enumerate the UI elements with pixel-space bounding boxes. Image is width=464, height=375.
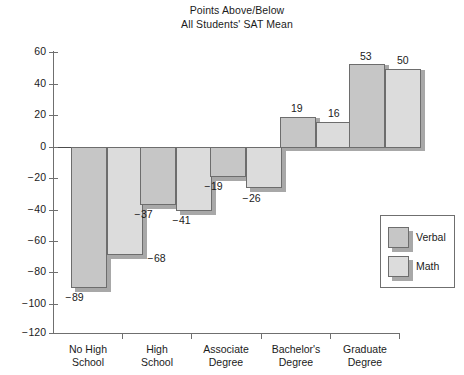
value-label-math: − 68 xyxy=(147,253,166,264)
legend-swatch-verbal xyxy=(388,227,409,248)
bar-math xyxy=(316,122,352,148)
bar-verbal xyxy=(280,117,316,148)
category-label-line: Degree xyxy=(320,356,410,369)
value-label-math: 16 xyxy=(328,108,340,119)
bar-math xyxy=(176,147,212,211)
legend-label-math: Math xyxy=(416,260,439,272)
x-tick xyxy=(399,333,400,339)
y-tick-label: − 120 xyxy=(21,326,46,338)
chart-title: Points Above/Below All Students' SAT Mea… xyxy=(137,4,337,31)
value-label-math: − 26 xyxy=(242,193,261,204)
plot-area: 60 40 20 0 − 20 − 40 − 60 − 80 xyxy=(53,51,400,334)
x-tick xyxy=(191,333,192,339)
value-label-math: − 41 xyxy=(172,215,191,226)
bar-verbal xyxy=(210,147,246,177)
value-label-verbal: 19 xyxy=(291,103,303,114)
bar-verbal xyxy=(71,147,107,288)
y-axis-line xyxy=(53,51,54,334)
chart-title-line2: All Students' SAT Mean xyxy=(137,18,337,32)
value-label-verbal: − 37 xyxy=(134,209,153,220)
y-tick-label: 0 xyxy=(40,140,46,152)
bar-verbal xyxy=(349,64,385,148)
y-tick-label: − 60 xyxy=(27,234,46,246)
legend-label-verbal: Verbal xyxy=(416,231,446,243)
bar-math xyxy=(246,147,282,188)
y-tick-label: − 40 xyxy=(27,203,46,215)
y-tick-label: − 100 xyxy=(21,297,46,309)
x-axis-line xyxy=(53,333,400,334)
value-label-verbal: 53 xyxy=(360,51,372,62)
sat-mean-bar-chart: Points Above/Below All Students' SAT Mea… xyxy=(0,0,464,375)
value-label-math: 50 xyxy=(397,55,409,66)
x-tick xyxy=(122,333,123,339)
bar-math xyxy=(385,69,421,148)
chart-legend: Verbal Math xyxy=(380,215,455,288)
y-tick-label: 40 xyxy=(34,77,46,89)
x-tick xyxy=(261,333,262,339)
value-label-verbal: − 19 xyxy=(204,181,223,192)
y-tick-label: 20 xyxy=(34,108,46,120)
chart-title-line1: Points Above/Below xyxy=(190,4,285,16)
bar-verbal xyxy=(140,147,176,205)
category-label-graduate-degree: Graduate Degree xyxy=(320,343,410,369)
value-label-verbal: − 89 xyxy=(65,292,84,303)
category-label-line: Graduate xyxy=(320,343,410,356)
legend-swatch-math xyxy=(388,256,409,277)
y-tick-label: − 80 xyxy=(27,265,46,277)
bar-math xyxy=(107,147,143,255)
y-tick-label: 60 xyxy=(34,45,46,57)
y-tick-label: − 20 xyxy=(27,171,46,183)
x-tick xyxy=(330,333,331,339)
